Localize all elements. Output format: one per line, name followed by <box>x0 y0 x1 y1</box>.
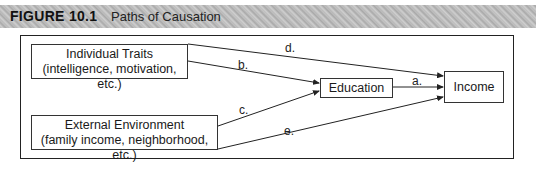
path-d-arrow <box>188 44 443 76</box>
path-c-arrow <box>218 91 319 126</box>
node-education-label: Education <box>321 81 392 96</box>
path-e-label: e. <box>284 124 294 138</box>
node-income-label: Income <box>445 80 503 95</box>
path-b-label: b. <box>238 58 248 72</box>
node-individual-traits: Individual Traits (intelligence, motivat… <box>31 44 188 79</box>
node-income: Income <box>444 71 504 103</box>
path-e-arrow <box>218 97 443 149</box>
node-external-environment: External Environment (family income, nei… <box>31 115 218 150</box>
node-education: Education <box>320 78 393 98</box>
path-a-label: a. <box>412 74 422 88</box>
path-c-label: c. <box>239 103 248 117</box>
node-individual-traits-title: Individual Traits <box>32 47 187 62</box>
path-d-label: d. <box>285 41 295 55</box>
node-external-environment-detail: (family income, neighborhood, etc.) <box>32 133 217 163</box>
node-individual-traits-detail: (intelligence, motivation, etc.) <box>32 62 187 92</box>
node-external-environment-title: External Environment <box>32 118 217 133</box>
path-b-arrow <box>188 61 319 83</box>
